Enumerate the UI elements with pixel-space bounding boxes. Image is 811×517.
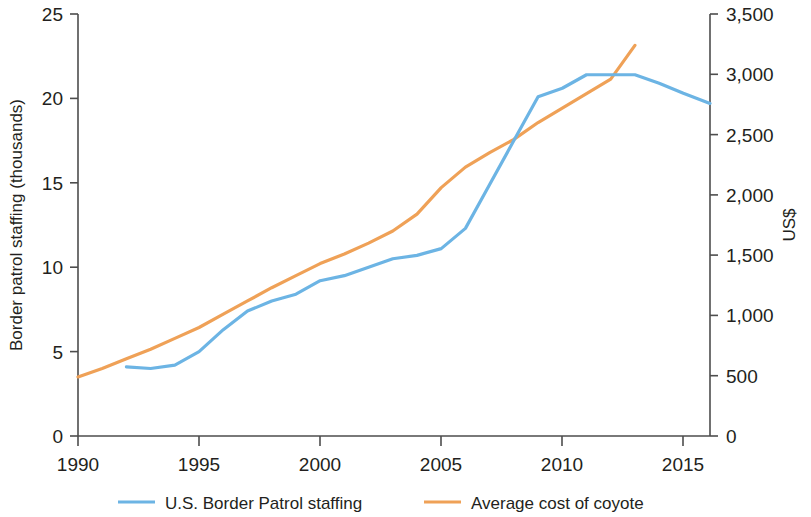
x-tick-label-1990: 1990 (57, 454, 99, 475)
right-tick-label-2000: 2,000 (726, 185, 774, 206)
legend-label-average-cost-of-coyote: Average cost of coyote (471, 494, 644, 513)
left-tick-label-25: 25 (42, 4, 63, 25)
left-tick-label-5: 5 (52, 342, 63, 363)
x-tick-label-2015: 2015 (662, 454, 704, 475)
left-axis-title: Border patrol staffing (thousands) (7, 99, 26, 351)
x-tick-label-2000: 2000 (299, 454, 341, 475)
right-tick-label-500: 500 (726, 366, 758, 387)
dual-axis-line-chart: 0 5 10 15 20 25 0 500 1,000 1,500 2,000 … (0, 0, 811, 517)
legend-label-border-patrol-staffing: U.S. Border Patrol staffing (165, 494, 362, 513)
right-tick-label-0: 0 (726, 426, 737, 447)
right-tick-label-2500: 2,500 (726, 125, 774, 146)
right-tick-label-3500: 3,500 (726, 4, 774, 25)
right-tick-label-3000: 3,000 (726, 64, 774, 85)
right-tick-label-1500: 1,500 (726, 245, 774, 266)
x-tick-label-2005: 2005 (420, 454, 462, 475)
right-tick-label-1000: 1,000 (726, 305, 774, 326)
left-tick-label-15: 15 (42, 173, 63, 194)
left-tick-label-0: 0 (52, 426, 63, 447)
right-axis-title: US$ (780, 208, 799, 242)
x-tick-label-2010: 2010 (541, 454, 583, 475)
left-tick-label-10: 10 (42, 257, 63, 278)
x-tick-label-1995: 1995 (178, 454, 220, 475)
left-tick-label-20: 20 (42, 88, 63, 109)
